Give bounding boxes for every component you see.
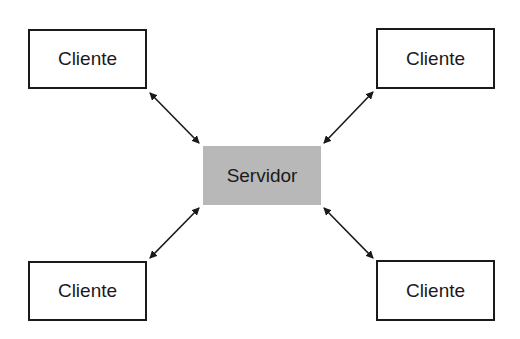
- client-label: Cliente: [58, 48, 117, 70]
- server-box: Servidor: [203, 146, 321, 205]
- arrow-bottom-left: [150, 208, 199, 258]
- client-box-bottom-right: Cliente: [376, 260, 495, 321]
- client-box-top-left: Cliente: [28, 29, 147, 89]
- client-label: Cliente: [58, 280, 117, 302]
- arrow-top-left: [150, 93, 199, 143]
- client-box-bottom-left: Cliente: [28, 261, 147, 321]
- arrow-top-right: [324, 92, 373, 143]
- client-label: Cliente: [406, 280, 465, 302]
- client-label: Cliente: [406, 48, 465, 70]
- server-label: Servidor: [227, 165, 298, 187]
- arrow-bottom-right: [324, 208, 373, 258]
- client-box-top-right: Cliente: [376, 28, 495, 89]
